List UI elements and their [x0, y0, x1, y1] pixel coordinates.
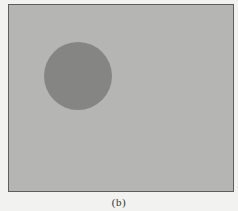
filled-circle	[44, 42, 112, 110]
figure-frame	[8, 4, 234, 192]
figure-caption: (b)	[0, 196, 238, 208]
figure-canvas: (b)	[0, 0, 238, 211]
